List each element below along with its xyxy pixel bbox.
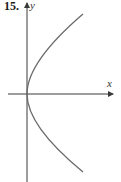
parabola-curve: [27, 14, 83, 172]
y-axis-label: y: [30, 0, 35, 11]
x-axis-label: x: [107, 78, 112, 89]
plot-area: [0, 0, 121, 182]
graph-figure: 15. y x: [0, 0, 121, 182]
